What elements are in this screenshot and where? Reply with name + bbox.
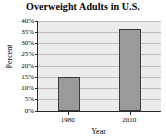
x-axis-tick-mark bbox=[130, 112, 131, 115]
x-axis-tick-labels: 19802010 bbox=[37, 116, 161, 126]
y-axis-tick-labels: 0%5%10%15%20%25%30%35%40% bbox=[5, 21, 34, 111]
y-axis-tick-label: 20% bbox=[6, 63, 34, 70]
y-axis-tick-label: 35% bbox=[6, 29, 34, 36]
gridline bbox=[38, 66, 161, 67]
x-axis-tick-mark bbox=[68, 112, 69, 115]
x-axis-tick-label-1980: 1980 bbox=[48, 116, 88, 124]
y-axis-tick-mark bbox=[35, 66, 38, 67]
chart-title: Overweight Adults in U.S. bbox=[0, 1, 166, 12]
y-axis-tick-label: 40% bbox=[6, 18, 34, 25]
y-axis-tick-label: 30% bbox=[6, 40, 34, 47]
x-axis-label: Year bbox=[37, 127, 160, 136]
y-axis-tick-mark bbox=[35, 88, 38, 89]
y-axis-tick-mark bbox=[35, 54, 38, 55]
y-axis-tick-mark bbox=[35, 43, 38, 44]
bar-2010 bbox=[119, 29, 141, 111]
bar-1980 bbox=[58, 77, 80, 111]
gridline bbox=[38, 54, 161, 55]
gridline bbox=[38, 77, 161, 78]
y-axis-tick-label: 25% bbox=[6, 51, 34, 58]
y-axis-tick-mark bbox=[35, 21, 38, 22]
bar-chart: Overweight Adults in U.S. Percent 0%5%10… bbox=[0, 0, 166, 139]
x-axis-tick-label-2010: 2010 bbox=[109, 116, 149, 124]
gridline bbox=[38, 88, 161, 89]
y-axis-tick-label: 5% bbox=[6, 96, 34, 103]
y-axis-tick-mark bbox=[35, 99, 38, 100]
gridline bbox=[38, 32, 161, 33]
y-axis-tick-mark bbox=[35, 32, 38, 33]
y-axis-tick-label: 15% bbox=[6, 74, 34, 81]
y-axis-tick-label: 0% bbox=[6, 108, 34, 115]
plot-area bbox=[37, 21, 161, 112]
y-axis-tick-label: 10% bbox=[6, 85, 34, 92]
gridline bbox=[38, 99, 161, 100]
gridline bbox=[38, 43, 161, 44]
gridline bbox=[38, 21, 161, 22]
y-axis-tick-mark bbox=[35, 77, 38, 78]
